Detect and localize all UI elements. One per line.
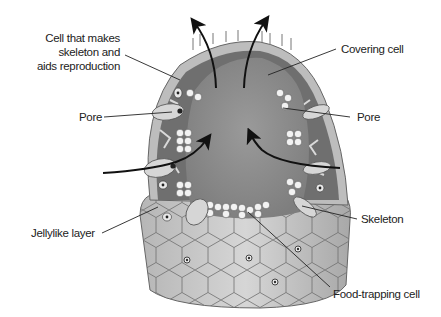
label-jellylike-layer: Jellylike layer — [31, 226, 95, 240]
label-pore-right: Pore — [357, 110, 380, 124]
label-line: Cell that makes — [30, 31, 120, 45]
label-line: aids reproduction — [30, 59, 120, 73]
label-covering-cell: Covering cell — [341, 42, 404, 56]
label-line: skeleton and — [30, 45, 120, 59]
label-food-trapping-cell: Food-trapping cell — [333, 287, 420, 301]
label-cell-skeleton: Cell that makes skeleton and aids reprod… — [30, 31, 120, 73]
label-skeleton: Skeleton — [361, 212, 403, 226]
label-pore-left: Pore — [79, 110, 102, 124]
